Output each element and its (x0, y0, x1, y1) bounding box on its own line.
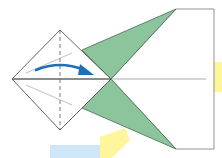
yellow-highlight-bottom (100, 128, 130, 158)
yellow-highlight-right (214, 62, 222, 92)
folding-diagram (0, 0, 222, 158)
blue-highlight-bottom (50, 145, 100, 158)
